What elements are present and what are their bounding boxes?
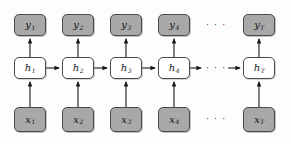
node-subscript: T	[261, 68, 265, 74]
node-input-xT: xT	[243, 107, 275, 132]
node-input-x1: x1	[14, 107, 46, 132]
node-subscript: T	[260, 119, 264, 125]
node-label: x	[25, 115, 31, 125]
node-subscript: 2	[79, 119, 83, 125]
node-hidden-hT: hT	[243, 57, 275, 79]
node-input-x2: x2	[62, 107, 94, 132]
node-subscript: 1	[31, 25, 35, 31]
node-subscript: 1	[31, 119, 35, 125]
node-subscript: 3	[127, 25, 131, 31]
ellipsis-hidden-row: · · ·	[206, 64, 226, 73]
rnn-unrolled-diagram: y1 y2 y3 y4 yT · · · h1 h2 h3 h4 hT · · …	[0, 0, 291, 144]
node-hidden-h3: h3	[110, 57, 142, 79]
node-label: h	[254, 63, 260, 73]
node-hidden-h2: h2	[62, 57, 94, 79]
node-hidden-h1: h1	[14, 57, 46, 79]
node-subscript: 3	[127, 119, 131, 125]
node-label: x	[121, 115, 127, 125]
node-subscript: T	[260, 25, 264, 31]
node-label: y	[254, 20, 260, 30]
node-output-y4: y4	[158, 14, 190, 36]
node-input-x4: x4	[158, 107, 190, 132]
node-subscript: 1	[32, 68, 36, 74]
node-subscript: 3	[128, 68, 132, 74]
node-label: y	[25, 20, 31, 30]
node-subscript: 4	[175, 119, 179, 125]
node-output-y1: y1	[14, 14, 46, 36]
node-input-x3: x3	[110, 107, 142, 132]
node-output-y2: y2	[62, 14, 94, 36]
node-label: h	[73, 63, 79, 73]
node-label: y	[121, 20, 127, 30]
node-label: x	[254, 115, 260, 125]
node-label: h	[25, 63, 31, 73]
node-subscript: 2	[79, 25, 83, 31]
node-label: h	[121, 63, 127, 73]
node-label: h	[169, 63, 175, 73]
node-hidden-h4: h4	[158, 57, 190, 79]
node-subscript: 4	[175, 25, 179, 31]
arrows-input-to-hidden	[30, 82, 259, 107]
node-output-yT: yT	[243, 14, 275, 36]
node-subscript: 4	[176, 68, 180, 74]
node-subscript: 2	[80, 68, 84, 74]
ellipsis-input-row: · · ·	[206, 115, 226, 124]
node-output-y3: y3	[110, 14, 142, 36]
ellipsis-output-row: · · ·	[206, 21, 226, 30]
arrows-hidden-to-output	[30, 39, 259, 57]
